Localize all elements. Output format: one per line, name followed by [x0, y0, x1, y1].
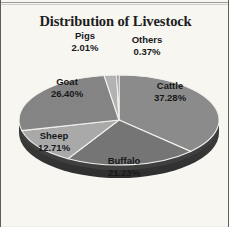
pie-label-buffalo: Buffalo 21.23% — [93, 155, 155, 178]
pie-label-others: Others 0.37% — [117, 34, 177, 57]
pie-label-goat: Goat 26.40% — [37, 76, 97, 99]
pie-label-buffalo-value: 21.23% — [93, 167, 155, 179]
pie-label-pigs-value: 2.01% — [57, 42, 113, 54]
pie-label-sheep-value: 12.71% — [23, 142, 85, 154]
pie-label-others-name: Others — [132, 34, 163, 45]
pie-label-goat-value: 26.40% — [37, 88, 97, 100]
pie-label-pigs: Pigs 2.01% — [57, 30, 113, 53]
pie-label-pigs-name: Pigs — [75, 30, 95, 41]
pie-label-cattle-name: Cattle — [157, 80, 183, 91]
pie-chart-figure: Distribution of Livestock — [0, 0, 229, 227]
pie-label-goat-name: Goat — [56, 76, 78, 87]
pie-chart-canvas — [1, 0, 229, 227]
pie-label-cattle: Cattle 37.28% — [141, 80, 199, 103]
bottom-divider-line — [1, 226, 229, 227]
pie-label-sheep-name: Sheep — [40, 130, 69, 141]
pie-chart-svg — [1, 0, 229, 227]
pie-label-sheep: Sheep 12.71% — [23, 130, 85, 153]
pie-label-buffalo-name: Buffalo — [108, 155, 141, 166]
pie-label-cattle-value: 37.28% — [141, 92, 199, 104]
pie-label-others-value: 0.37% — [117, 46, 177, 58]
